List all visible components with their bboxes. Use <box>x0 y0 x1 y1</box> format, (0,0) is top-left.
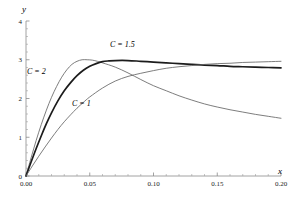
x-tick-label: 0.20 <box>275 180 288 188</box>
x-tick-label: 0.10 <box>147 180 160 188</box>
curve-series-0 <box>26 60 281 176</box>
curve-label-c2: C = 2 <box>27 67 46 76</box>
plot-figure: 0.000.050.100.150.2001234 C = 2 C = 1.5 … <box>0 0 291 200</box>
plot-canvas: 0.000.050.100.150.2001234 <box>0 0 291 200</box>
y-tick-label: 0 <box>19 173 23 181</box>
y-axis-ticks <box>26 21 30 176</box>
y-axis-label: y <box>22 4 26 14</box>
x-axis-label: x <box>278 166 282 176</box>
curve-label-c15: C = 1.5 <box>110 40 135 49</box>
axes-group <box>26 21 281 176</box>
curve-series-1 <box>26 60 281 176</box>
y-tick-label: 3 <box>19 56 23 64</box>
x-tick-label: 0.15 <box>211 180 224 188</box>
x-axis-ticks <box>26 173 281 177</box>
y-tick-label: 1 <box>19 134 23 142</box>
x-tick-label: 0.05 <box>84 180 97 188</box>
curve-label-c1: C = 1 <box>72 99 91 108</box>
curve-series-2 <box>26 61 281 176</box>
tick-labels-group: 0.000.050.100.150.2001234 <box>19 18 288 188</box>
curves-group <box>26 60 281 176</box>
y-tick-label: 2 <box>19 95 23 103</box>
x-tick-label: 0.00 <box>20 180 33 188</box>
y-tick-label: 4 <box>19 18 23 26</box>
